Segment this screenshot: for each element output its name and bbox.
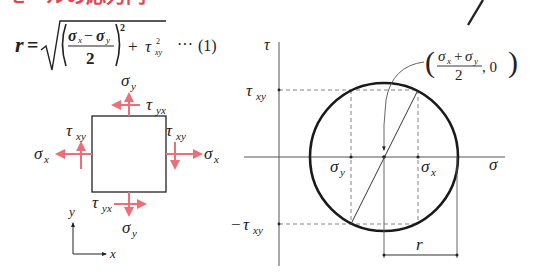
y-axis-label: y	[67, 204, 75, 219]
tick-tau-xy	[278, 89, 281, 92]
center-num-b: σ	[465, 48, 473, 64]
mohr-circle-plot: τ σ r τ xy − τ	[231, 36, 518, 266]
num-sigma-b: σ	[96, 27, 105, 44]
num-minus: −	[84, 27, 93, 44]
formula-number: (1)	[198, 37, 217, 55]
tau-axis-label: τ	[264, 36, 271, 53]
sigma-x-tick-label-sub: x	[430, 166, 436, 178]
label-tau-xy-right: τ	[166, 121, 173, 140]
figure-canvas: モールの応力円 r = σ x − σ y 2 2 + τ xy 2 ··· (…	[0, 0, 539, 280]
formula-lhs: r	[15, 32, 24, 57]
label-tau-yx-bottom: τ	[92, 193, 99, 212]
mohr-circle-figure: モールの応力円 r = σ x − σ y 2 2 + τ xy 2 ··· (…	[0, 0, 539, 280]
center-num-a-sub: x	[446, 56, 451, 66]
neg-tau-xy-label: τ	[243, 215, 250, 234]
element-square	[92, 116, 166, 192]
center-num-a: σ	[438, 48, 446, 64]
sigma-y-tick-label: σ	[330, 157, 339, 176]
label-tau-yx-bottom-sub: yx	[101, 202, 112, 214]
heading-text: モールの応力円	[6, 0, 146, 7]
formula-equals: =	[27, 34, 38, 56]
center-open-paren: (	[425, 45, 435, 79]
tick-neg-tau-xy	[278, 223, 281, 226]
label-tau-xy-left-sub: xy	[75, 130, 86, 142]
point-sigma-x	[416, 155, 419, 158]
center-plus: +	[454, 48, 462, 64]
x-axis-label: x	[109, 246, 116, 261]
sigma-y-tick-label-sub: y	[339, 166, 345, 178]
center-den: 2	[455, 67, 463, 83]
label-sigma-x-right-sub: x	[213, 153, 219, 165]
neg-tau-prefix: −	[231, 215, 241, 234]
tau-xy-label: τ	[246, 81, 253, 100]
label-tau-xy-left: τ	[66, 121, 73, 140]
right-paren	[116, 24, 120, 66]
point-sigma-y	[349, 155, 352, 158]
label-tau-yx-top: τ	[146, 95, 153, 114]
formula-tau: τ	[145, 37, 152, 56]
label-sigma-y-top-sub: y	[130, 80, 136, 92]
neg-tau-xy-label-sub: xy	[252, 224, 263, 236]
label-tau-yx-top-sub: yx	[155, 104, 166, 116]
left-paren	[63, 24, 67, 66]
formula-tau-sub: xy	[154, 48, 163, 57]
tau-xy-label-sub: xy	[255, 90, 266, 102]
radius-dim-start	[383, 254, 386, 257]
formula-dots: ···	[177, 36, 193, 53]
num-sub-b: y	[105, 35, 110, 45]
radius-formula: r = σ x − σ y 2 2 + τ xy 2 ··· (1)	[15, 21, 217, 70]
paren-exponent: 2	[120, 22, 125, 33]
center-coordinate-label: ( σ x + σ y 2 , 0 )	[425, 45, 518, 83]
radius-dim-end	[456, 254, 459, 257]
label-sigma-x-right: σ	[204, 144, 213, 163]
slash-mark	[468, 0, 483, 25]
sigma-x-tick-label: σ	[421, 157, 430, 176]
label-sigma-y-bottom: σ	[122, 218, 131, 237]
sigma-axis-label: σ	[489, 155, 498, 174]
formula-plus: +	[128, 37, 138, 56]
num-sub-a: x	[77, 35, 82, 45]
section-heading: モールの応力円	[6, 0, 156, 7]
center-close-paren: )	[508, 45, 518, 79]
label-tau-xy-right-sub: xy	[175, 130, 186, 142]
denominator: 2	[86, 49, 95, 68]
label-sigma-y-bottom-sub: y	[131, 227, 137, 239]
label-sigma-y-top: σ	[121, 71, 130, 90]
formula-tau-exp: 2	[156, 37, 160, 46]
label-sigma-x-left: σ	[34, 144, 43, 163]
stress-element: σ y τ yx τ xy σ x τ xy σ x τ yx σ y y x	[34, 71, 219, 261]
label-sigma-x-left-sub: x	[43, 153, 49, 165]
center-num-b-sub: y	[473, 56, 478, 66]
center-comma-zero: , 0	[482, 59, 497, 75]
radius-label: r	[416, 235, 423, 254]
num-sigma-a: σ	[68, 27, 77, 44]
